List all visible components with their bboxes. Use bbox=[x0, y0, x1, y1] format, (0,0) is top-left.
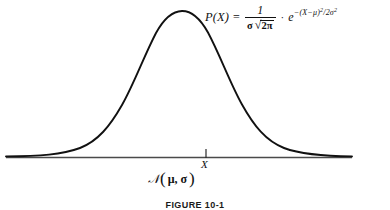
probability-density-formula: P(X) = 1 σ√2π · e −(X−μ)2/2σ2 bbox=[205, 4, 337, 32]
exponent-denominator-square: 2 bbox=[334, 7, 337, 13]
open-paren: ( bbox=[160, 169, 166, 189]
normal-distribution-chart bbox=[0, 0, 390, 210]
x-axis-tick-label: X bbox=[201, 158, 208, 170]
formula-denominator: σ√2π bbox=[245, 18, 276, 32]
formula-fraction: 1 σ√2π bbox=[245, 4, 276, 32]
script-n-symbol: 𝒩 bbox=[148, 172, 159, 186]
gaussian-curve-path bbox=[6, 11, 352, 156]
exponent-main: −(X−μ) bbox=[294, 8, 320, 17]
exponent-square: 2 bbox=[320, 7, 323, 13]
distribution-notation-label: 𝒩 ( μ, σ ) bbox=[148, 169, 195, 189]
figure-container: P(X) = 1 σ√2π · e −(X−μ)2/2σ2 X 𝒩 ( μ, σ… bbox=[0, 0, 390, 210]
figure-caption: FIGURE 10-1 bbox=[0, 200, 390, 210]
exponent-denominator: /2σ bbox=[323, 8, 334, 17]
exponent-expression: −(X−μ)2/2σ2 bbox=[294, 8, 337, 17]
sigma-symbol: σ bbox=[247, 20, 253, 31]
multiplication-dot-icon: · bbox=[281, 11, 285, 23]
formula-numerator: 1 bbox=[251, 4, 269, 17]
distribution-parameters: μ, σ bbox=[166, 172, 189, 187]
close-paren: ) bbox=[189, 169, 195, 189]
square-root-group: √2π bbox=[255, 19, 274, 32]
radicand: 2π bbox=[260, 20, 273, 32]
formula-lhs: P(X) bbox=[205, 10, 229, 25]
formula-equals-sign: = bbox=[233, 10, 240, 25]
